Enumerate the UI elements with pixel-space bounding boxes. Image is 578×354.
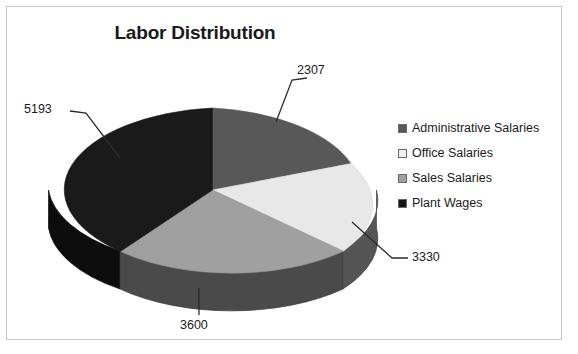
legend-item-office-salaries[interactable]: Office Salaries — [398, 141, 570, 165]
legend-label: Plant Wages — [412, 196, 482, 210]
legend-label: Sales Salaries — [412, 171, 492, 185]
legend-item-sales-salaries[interactable]: Sales Salaries — [398, 166, 570, 190]
data-label-office-salaries: 3330 — [412, 250, 440, 264]
chart-screenshot: Labor Distribution — [0, 0, 578, 354]
legend-item-administrative-salaries[interactable]: Administrative Salaries — [398, 116, 570, 140]
data-label-sales-salaries: 3600 — [180, 318, 208, 332]
data-label-administrative-salaries: 2307 — [297, 63, 325, 77]
leader-line-administrative — [276, 78, 307, 122]
chart-legend: Administrative Salaries Office Salaries … — [398, 116, 570, 216]
legend-item-plant-wages[interactable]: Plant Wages — [398, 191, 570, 215]
legend-swatch-icon — [398, 149, 407, 158]
legend-label: Office Salaries — [412, 146, 493, 160]
legend-label: Administrative Salaries — [412, 121, 539, 135]
legend-swatch-icon — [398, 124, 407, 133]
legend-swatch-icon — [398, 199, 407, 208]
legend-swatch-icon — [398, 174, 407, 183]
data-label-plant-wages: 5193 — [24, 102, 52, 116]
